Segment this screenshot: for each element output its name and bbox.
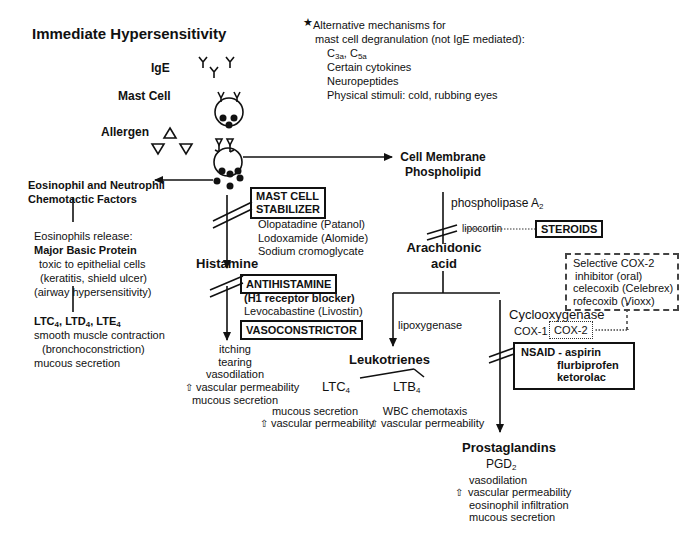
star-icon: ★ — [303, 16, 313, 28]
phospholipase-label: phospholipase A2 — [451, 196, 544, 211]
effect-item: vasodilation — [185, 368, 285, 381]
leukotriene-effects-block: LTC4, LTD4, LTE4 smooth muscle contracti… — [34, 314, 165, 370]
alternative-item-physical: Physical stimuli: cold, rubbing eyes — [327, 88, 525, 102]
drug-aspirin: NSAID - aspirin — [521, 346, 627, 359]
allergen-icon — [152, 128, 192, 154]
alternative-heading-2: mast cell degranulation (not IgE mediate… — [303, 32, 525, 46]
steroids-box: STEROIDS — [535, 220, 603, 238]
cox2-box-line: Selective COX-2 — [573, 257, 673, 270]
up-arrow-icon: ⇧ — [370, 418, 378, 429]
drug-cromoglycate: Sodium cromoglycate — [258, 245, 368, 259]
drug-olopatadine: Olopatadine (Patanol) — [258, 218, 368, 232]
lt-line: smooth muscle contraction — [34, 328, 165, 342]
alternative-mechanisms: ★Alternative mechanisms for mast cell de… — [303, 18, 525, 102]
effect-item: ⇧vascular permeability — [370, 417, 480, 430]
effect-item: vasodilation — [455, 474, 571, 486]
up-arrow-icon: ⇧ — [260, 418, 268, 429]
effect-item: tearing — [185, 356, 285, 369]
stabilizer-drugs: Olopatadine (Patanol) Lodoxamide (Alomid… — [258, 218, 368, 259]
cox2-box-line: inhibitor (oral) — [573, 270, 673, 283]
mbp-line: (airway hypersensitivity) — [34, 285, 151, 299]
antihistamine-box: ANTIHISTAMINE — [240, 274, 337, 294]
histamine-effects: itching tearing vasodilation ⇧vascular p… — [185, 343, 285, 407]
antihistamine-info: (H1 receptor blocker) Levocabastine (Liv… — [244, 292, 363, 318]
alternative-item-neuropeptides: Neuropeptides — [327, 74, 525, 88]
cox1-label: COX-1 — [514, 324, 548, 338]
lipocortin-label: lipocortin — [462, 223, 502, 234]
mbp-line: (keratitis, shield ulcer) — [34, 271, 151, 285]
mast-cell-icon — [215, 92, 243, 126]
ltb4-label: LTB4 — [393, 379, 420, 395]
drug-ketorolac: ketorolac — [521, 371, 627, 384]
leukotrienes-label: Leukotrienes — [349, 352, 430, 368]
drug-rofecoxib: rofecoxib (Vioxx) — [573, 295, 673, 308]
histamine-label: Histamine — [196, 256, 258, 272]
ige-antibody-icon — [199, 57, 234, 78]
lipoxygenase-label: lipoxygenase — [398, 318, 462, 332]
prostaglandins-label: Prostaglandins — [462, 440, 556, 456]
eosinophil-factors-title: Eosinophil and Neutrophil Chemotactic Fa… — [28, 178, 165, 206]
h1-blocker-label: (H1 receptor blocker) — [244, 292, 363, 305]
mast-cell-stabilizer-box: MAST CELL STABILIZER — [250, 187, 326, 219]
arachidonic-acid-label: Arachidonic acid — [404, 240, 484, 272]
selective-cox2-inhibitor-box: Selective COX-2 inhibitor (oral) celecox… — [565, 253, 679, 311]
ltc4-label: LTC4 — [322, 379, 350, 395]
alternative-item-complement: C3a, C5a — [327, 46, 525, 60]
drug-celecoxib: celecoxib (Celebrex) — [573, 282, 673, 295]
lt-line: (bronchoconstriction) — [34, 342, 165, 356]
mast-cell-label: Mast Cell — [118, 89, 171, 104]
nsaid-box: NSAID - aspirin flurbiprofen ketorolac — [513, 342, 635, 390]
alternative-item-cytokines: Certain cytokines — [327, 60, 525, 74]
effect-item: ⇧vascular permeability — [455, 486, 571, 499]
lt-line: mucous secretion — [34, 356, 165, 370]
ltc4-effects: mucous secretion ⇧vascular permeability — [260, 405, 370, 430]
lt-title: LTC4, LTD4, LTE4 — [34, 314, 165, 328]
eosinophil-release-label: Eosinophils release: — [34, 229, 151, 243]
allergen-label: Allergen — [101, 125, 149, 140]
vasoconstrictor-box: VASOCONSTRICTOR — [240, 320, 363, 340]
cell-membrane-phospholipid: Cell Membrane Phospholipid — [398, 150, 488, 180]
pgd2-label: PGD2 — [486, 457, 516, 472]
prostaglandin-effects: vasodilation ⇧vascular permeability eosi… — [455, 474, 571, 523]
eosinophil-release-block: Eosinophils release: Major Basic Protein… — [34, 229, 151, 299]
up-arrow-icon: ⇧ — [455, 487, 463, 498]
drug-levocabastine: Levocabastine (Livostin) — [244, 305, 363, 318]
major-basic-protein: Major Basic Protein — [34, 243, 151, 257]
effect-item: ⇧vascular permeability — [260, 417, 370, 430]
effect-item: eosinophil infiltration — [455, 499, 571, 511]
up-arrow-icon: ⇧ — [185, 382, 193, 393]
ltb4-effects: WBC chemotaxis ⇧vascular permeability — [370, 405, 480, 430]
mbp-line: toxic to epithelial cells — [34, 257, 151, 271]
effect-item: itching — [185, 343, 285, 356]
effect-item: mucous secretion — [260, 405, 370, 417]
alternative-heading-1: Alternative mechanisms for — [313, 19, 446, 31]
drug-flurbiprofen: flurbiprofen — [521, 359, 627, 372]
effect-item: ⇧vascular permeability — [185, 381, 285, 395]
effect-item: mucous secretion — [455, 511, 571, 523]
page-title: Immediate Hypersensitivity — [32, 25, 226, 43]
drug-lodoxamide: Lodoxamide (Alomide) — [258, 232, 368, 246]
effect-item: WBC chemotaxis — [370, 405, 480, 417]
cox2-label: COX-2 — [549, 321, 593, 339]
ige-label: IgE — [151, 61, 170, 76]
